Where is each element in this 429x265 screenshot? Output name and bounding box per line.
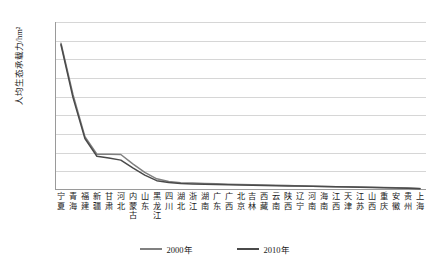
x-axis-tick-label: 湖北 bbox=[175, 192, 187, 234]
x-axis-tick-label-char: 龙 bbox=[153, 202, 161, 212]
x-axis-tick-label-char: 江 bbox=[356, 192, 364, 202]
x-axis-tick-label-char: 蒙 bbox=[129, 202, 137, 212]
x-axis-tick-label-char: 庆 bbox=[380, 202, 388, 212]
x-axis-tick-label-char: 陕 bbox=[284, 192, 292, 202]
chart-legend: 2000年2010年 bbox=[0, 243, 429, 255]
x-axis-tick-label: 黑龙江 bbox=[151, 192, 163, 234]
x-axis-tick-label-char: 徽 bbox=[392, 202, 400, 212]
x-axis-tick-label-char: 甘 bbox=[105, 192, 113, 202]
x-axis-tick-label: 山西 bbox=[366, 192, 378, 234]
x-axis-tick-labels: 宁夏青海福建新疆甘肃河北内蒙古山东黑龙江四川湖北浙江湖南广东广西北京吉林西藏云南… bbox=[55, 192, 426, 234]
x-axis-tick-label: 甘肃 bbox=[103, 192, 115, 234]
x-axis-tick-label: 新疆 bbox=[91, 192, 103, 234]
x-axis-tick-label-char: 海 bbox=[69, 202, 77, 212]
x-axis-tick-label-char: 辽 bbox=[296, 192, 304, 202]
x-axis-tick-label-char: 西 bbox=[368, 202, 376, 212]
x-axis-tick-label-char: 疆 bbox=[93, 202, 101, 212]
series-line-2010年 bbox=[61, 45, 420, 189]
x-axis-tick-label: 浙江 bbox=[187, 192, 199, 234]
x-axis-tick-label-char: 西 bbox=[284, 202, 292, 212]
x-axis-tick-label: 陕西 bbox=[282, 192, 294, 234]
x-axis-tick-label: 贵州 bbox=[402, 192, 414, 234]
legend-label: 2000年 bbox=[167, 243, 193, 255]
x-axis-tick-label-char: 北 bbox=[237, 192, 245, 202]
x-axis-tick-label-char: 东 bbox=[141, 202, 149, 212]
x-axis-tick-label-char: 南 bbox=[201, 202, 209, 212]
x-axis-tick-label: 云南 bbox=[270, 192, 282, 234]
x-axis-tick-label-char: 建 bbox=[81, 202, 89, 212]
x-axis-tick-label-char: 江 bbox=[153, 211, 161, 221]
x-axis-tick-label: 河北 bbox=[115, 192, 127, 234]
legend-swatch-icon bbox=[140, 248, 162, 250]
x-axis-tick-label-char: 川 bbox=[165, 202, 173, 212]
x-axis-tick-label-char: 天 bbox=[344, 192, 352, 202]
x-axis-tick-label-char: 四 bbox=[165, 192, 173, 202]
x-axis-tick-label-char: 吉 bbox=[248, 192, 256, 202]
x-axis-tick-label: 海南 bbox=[318, 192, 330, 234]
x-axis-tick-label-char: 州 bbox=[404, 202, 412, 212]
x-axis-tick-label-char: 京 bbox=[237, 202, 245, 212]
x-axis-tick-label: 上海 bbox=[414, 192, 426, 234]
x-axis-tick-label-char: 云 bbox=[272, 192, 280, 202]
x-axis-tick-label: 天津 bbox=[342, 192, 354, 234]
legend-label: 2010年 bbox=[264, 243, 290, 255]
x-axis-tick-label: 湖南 bbox=[199, 192, 211, 234]
x-axis-tick-label: 山东 bbox=[139, 192, 151, 234]
x-axis-tick-label-char: 南 bbox=[272, 202, 280, 212]
x-axis-tick-label-char: 黑 bbox=[153, 192, 161, 202]
legend-swatch-icon bbox=[237, 248, 259, 250]
x-axis-tick-label-char: 重 bbox=[380, 192, 388, 202]
legend-item[interactable]: 2010年 bbox=[237, 243, 290, 255]
x-axis-tick-label-char: 湖 bbox=[177, 192, 185, 202]
x-axis-tick-label-char: 北 bbox=[177, 202, 185, 212]
x-axis-tick-label-char: 东 bbox=[213, 202, 221, 212]
x-axis-tick-label: 吉林 bbox=[247, 192, 259, 234]
x-axis-tick-label: 江西 bbox=[330, 192, 342, 234]
x-axis-tick-label: 河南 bbox=[306, 192, 318, 234]
x-axis-tick-label-char: 西 bbox=[332, 202, 340, 212]
x-axis-tick-label: 内蒙古 bbox=[127, 192, 139, 234]
x-axis-tick-label: 安徽 bbox=[390, 192, 402, 234]
x-axis-tick-label-char: 古 bbox=[129, 211, 137, 221]
x-axis-tick-label-char: 河 bbox=[117, 192, 125, 202]
x-axis-tick-label: 重庆 bbox=[378, 192, 390, 234]
x-axis-tick-label: 辽宁 bbox=[294, 192, 306, 234]
x-axis-tick-label-char: 福 bbox=[81, 192, 89, 202]
x-axis-tick-label: 北京 bbox=[235, 192, 247, 234]
x-axis-tick-label-char: 西 bbox=[225, 202, 233, 212]
x-axis-tick-label-char: 河 bbox=[308, 192, 316, 202]
x-axis-tick-label-char: 南 bbox=[308, 202, 316, 212]
series-line-2000年 bbox=[61, 43, 420, 188]
x-axis-tick-label-char: 藏 bbox=[260, 202, 268, 212]
x-axis-tick-label: 青海 bbox=[67, 192, 79, 234]
x-axis-tick-label-char: 广 bbox=[213, 192, 221, 202]
x-axis-tick-label-char: 宁 bbox=[57, 192, 65, 202]
x-axis-tick-label-char: 山 bbox=[141, 192, 149, 202]
x-axis-tick-label: 宁夏 bbox=[55, 192, 67, 234]
x-axis-tick-label-char: 新 bbox=[93, 192, 101, 202]
x-axis-tick-label: 广东 bbox=[211, 192, 223, 234]
x-axis-tick-label-char: 江 bbox=[189, 202, 197, 212]
x-axis-tick-label-char: 上 bbox=[416, 192, 424, 202]
x-axis-tick-label: 西藏 bbox=[258, 192, 270, 234]
x-axis-tick-label-char: 海 bbox=[416, 202, 424, 212]
legend-item[interactable]: 2000年 bbox=[140, 243, 193, 255]
x-axis-tick-label-char: 夏 bbox=[57, 202, 65, 212]
x-axis-tick-label-char: 青 bbox=[69, 192, 77, 202]
x-axis-tick-label-char: 湖 bbox=[201, 192, 209, 202]
x-axis-tick-label: 福建 bbox=[79, 192, 91, 234]
x-axis-tick-label-char: 津 bbox=[344, 202, 352, 212]
x-axis-tick-label-char: 贵 bbox=[404, 192, 412, 202]
x-axis-tick-label-char: 西 bbox=[260, 192, 268, 202]
x-axis-tick-label-char: 北 bbox=[117, 202, 125, 212]
x-axis-tick-label-char: 浙 bbox=[189, 192, 197, 202]
x-axis-tick-label: 江苏 bbox=[354, 192, 366, 234]
x-axis-tick-label-char: 海 bbox=[320, 192, 328, 202]
x-axis-tick-label-char: 苏 bbox=[356, 202, 364, 212]
x-axis-tick-label-char: 宁 bbox=[296, 202, 304, 212]
x-axis-tick-label: 四川 bbox=[163, 192, 175, 234]
x-axis-tick-label-char: 南 bbox=[320, 202, 328, 212]
x-axis-tick-label-char: 江 bbox=[332, 192, 340, 202]
x-axis-tick-label-char: 内 bbox=[129, 192, 137, 202]
x-axis-tick-label: 广西 bbox=[223, 192, 235, 234]
